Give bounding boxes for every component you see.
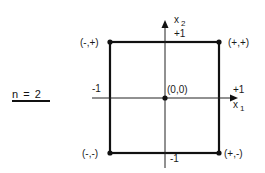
x2-axis-subscript: 2 (181, 19, 185, 28)
bottom-right-point-label: (+,-) (224, 148, 243, 159)
corner-dot-top-left (107, 39, 112, 44)
x1-axis-label: x1 (233, 99, 244, 111)
corner-dot-bottom-right (216, 150, 221, 155)
x1-neg-tick: -1 (92, 83, 101, 94)
x2-axis-arrow-icon (162, 20, 169, 28)
top-right-point-label: (+,+) (228, 37, 249, 48)
corner-dot-bottom-left (107, 150, 112, 155)
x1-axis-subscript: 1 (240, 104, 244, 113)
top-left-point-label: (-,+) (80, 37, 99, 48)
center-point-label: (0,0) (167, 84, 188, 95)
corner-dot-top-right (216, 39, 221, 44)
x2-axis-label: x2 (174, 14, 185, 26)
x1-axis-label-text: x (233, 99, 238, 110)
x2-pos-tick: +1 (174, 28, 185, 39)
x2-neg-tick: -1 (170, 153, 179, 164)
center-dot (162, 95, 167, 100)
n-label-underline (12, 100, 50, 102)
x1-pos-tick: +1 (233, 84, 244, 95)
x2-axis-label-text: x (174, 14, 179, 25)
n-label: n = 2 (12, 88, 42, 100)
bottom-left-point-label: (-,-) (82, 148, 98, 159)
